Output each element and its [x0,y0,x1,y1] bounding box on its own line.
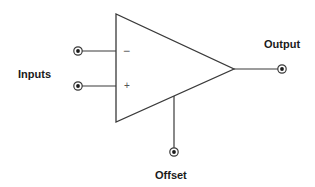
inverting-sign: − [123,45,130,57]
offset-label: Offset [155,169,187,181]
non-inverting-sign: + [124,81,130,91]
op-amp-triangle [116,14,234,122]
inverting-input-pin-icon [74,47,82,55]
output-pin-icon [278,65,286,73]
offset-pin-icon [170,148,178,156]
output-label: Output [264,38,300,50]
inputs-label: Inputs [18,68,51,80]
op-amp-diagram [0,0,315,187]
non-inverting-input-pin-icon [74,82,82,90]
